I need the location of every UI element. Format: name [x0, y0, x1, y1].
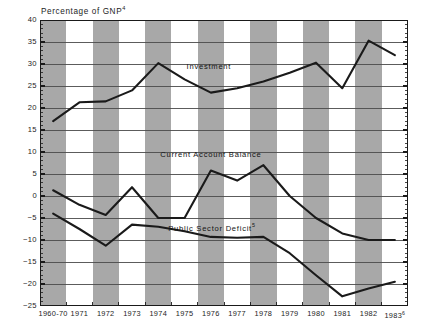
series-label-current-account-balance: Current Account Balance	[160, 150, 261, 159]
plot-area: Investment Current Account Balance Publi…	[40, 20, 408, 306]
series-label-public-sector-text: Public Sector Deficit	[168, 223, 252, 232]
x-axis-tick-1976: 1976	[202, 309, 220, 318]
x-axis-tick-1978: 1978	[255, 309, 273, 318]
y-axis-tick-15: 15	[3, 126, 37, 134]
x-axis-tick-1971: 1971	[71, 309, 89, 318]
x-axis-tick-1977: 1977	[228, 309, 246, 318]
y-axis-tick--20: −20	[3, 280, 37, 288]
y-axis-tick-40: 40	[3, 16, 37, 24]
y-axis-tick-labels: 4035302520151050−5−10−15−20−25	[0, 20, 37, 306]
x-axis-tick-1974: 1974	[149, 309, 167, 318]
series-label-public-sector-superscript: 5	[252, 222, 255, 228]
y-axis-tick--15: −15	[3, 258, 37, 266]
series-label-investment-text: Investment	[187, 62, 232, 71]
y-axis-tick-25: 25	[3, 82, 37, 90]
y-axis-tick-20: 20	[3, 104, 37, 112]
series-label-current-account-text: Current Account Balance	[160, 150, 261, 159]
x-axis-tick-1980: 1980	[307, 309, 325, 318]
y-axis-tick-0: 0	[3, 192, 37, 200]
x-axis-tick-1975: 1975	[176, 309, 194, 318]
series-label-public-sector-deficit: Public Sector Deficit5	[168, 222, 255, 233]
x-axis-tick-1972: 1972	[97, 309, 115, 318]
y-axis-tick--5: −5	[3, 214, 37, 222]
y-axis-tick--10: −10	[3, 236, 37, 244]
y-axis-tick-30: 30	[3, 60, 37, 68]
x-axis-tick-1982: 1982	[360, 309, 378, 318]
chart-axis-title-text: Percentage of GNP	[41, 7, 122, 16]
x-axis-tick-labels: 1960-70197119721973197419751976197719781…	[40, 309, 408, 323]
y-axis-tick-5: 5	[3, 170, 37, 178]
y-axis-tick--25: −25	[3, 302, 37, 310]
x-axis-tick-1973: 1973	[123, 309, 141, 318]
x-axis-tick-superscript: 6	[402, 310, 405, 316]
chart-axis-title: Percentage of GNP4	[41, 5, 125, 16]
chart-axis-title-superscript: 4	[122, 5, 125, 11]
series-label-investment: Investment	[187, 62, 232, 71]
gnp-percentage-chart: Percentage of GNP4 4035302520151050−5−10…	[0, 0, 430, 333]
x-axis-tick-1960-70: 1960-70	[39, 309, 68, 318]
y-axis-tick-35: 35	[3, 38, 37, 46]
x-axis-tick-1983: 19836	[384, 309, 405, 320]
x-axis-tick-1981: 1981	[333, 309, 351, 318]
x-axis-tick-1979: 1979	[281, 309, 299, 318]
y-axis-tick-10: 10	[3, 148, 37, 156]
